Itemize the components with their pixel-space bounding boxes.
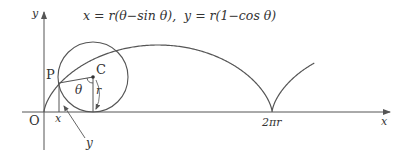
axis-x-label: x xyxy=(381,116,387,127)
y-leader-arrow xyxy=(64,106,85,138)
radius-r-label: r xyxy=(96,85,101,96)
axis-y-label: y xyxy=(32,8,38,19)
diagram-graphics xyxy=(0,0,413,161)
origin-label: O xyxy=(29,114,40,127)
coord-y-label: y xyxy=(86,137,93,149)
cycloid-diagram: y x = r(θ−sin θ), y = r(1−cos θ) P C θ r… xyxy=(0,0,413,161)
equation: x = r(θ−sin θ), y = r(1−cos θ) xyxy=(83,10,276,23)
center-c-label: C xyxy=(96,63,106,76)
center-dot xyxy=(91,75,95,79)
point-p-label: P xyxy=(46,68,55,81)
angle-theta-label: θ xyxy=(75,84,82,96)
cusp-2pir-label: 2πr xyxy=(262,117,282,128)
equation-x: x = r(θ−sin θ), xyxy=(83,8,176,23)
angle-arc xyxy=(87,78,93,83)
equation-y: y = r(1−cos θ) xyxy=(184,8,276,23)
coord-x-label: x xyxy=(55,113,61,124)
